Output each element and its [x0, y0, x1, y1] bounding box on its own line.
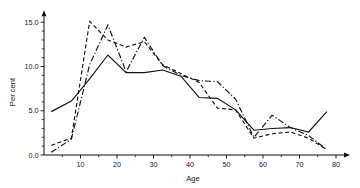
x-tick-label: 60	[259, 160, 267, 169]
y-tick-label: 10.0	[25, 62, 39, 71]
series-solid	[51, 55, 327, 132]
x-tick-label: 80	[332, 160, 340, 169]
y-axis-title: Per cent	[8, 77, 17, 106]
x-axis-title: Age	[186, 174, 200, 183]
x-tick-label: 70	[296, 160, 304, 169]
chart-container: 0.05.010.015.01020304050607080 Per cent …	[0, 0, 360, 188]
x-tick-label: 30	[150, 160, 158, 169]
x-axis-arrow-icon	[344, 153, 350, 158]
x-tick-label: 20	[113, 160, 121, 169]
line-chart: 0.05.010.015.01020304050607080 Per cent …	[0, 0, 360, 188]
x-tick-label: 10	[77, 160, 85, 169]
data-series-group	[51, 21, 327, 152]
axis-tick-labels: 0.05.010.015.01020304050607080	[25, 18, 341, 169]
y-tick-label: 0.0	[29, 151, 39, 160]
y-tick-label: 15.0	[25, 18, 39, 27]
series-dashdot	[51, 25, 327, 152]
y-axis-arrow-icon	[42, 10, 47, 16]
axis-ticks	[41, 22, 337, 158]
y-tick-label: 5.0	[29, 106, 39, 115]
x-tick-label: 40	[186, 160, 194, 169]
x-tick-label: 50	[223, 160, 231, 169]
